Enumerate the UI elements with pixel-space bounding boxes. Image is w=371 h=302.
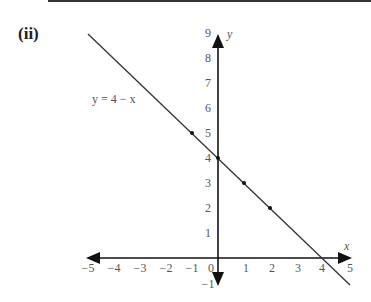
svg-text:6: 6 [205,101,211,115]
svg-text:5: 5 [205,126,211,140]
svg-text:5: 5 [347,261,353,275]
svg-text:3: 3 [295,261,301,275]
svg-text:4: 4 [205,151,211,165]
svg-text:2: 2 [205,201,211,215]
svg-text:−3: −3 [134,261,147,275]
x-axis [86,252,352,264]
svg-text:7: 7 [205,76,211,90]
svg-text:1: 1 [243,261,249,275]
svg-text:4: 4 [319,261,325,275]
svg-text:−2: −2 [160,261,173,275]
y-axis-up-arrow-icon [212,34,224,48]
svg-text:3: 3 [205,176,211,190]
svg-text:8: 8 [205,51,211,65]
svg-text:−4: −4 [108,261,121,275]
point-2-2 [268,206,272,210]
svg-text:2: 2 [269,261,275,275]
svg-text:−1: −1 [202,277,215,291]
svg-text:−5: −5 [82,261,95,275]
point-1-3 [242,181,246,185]
equation-label: y = 4 − x [92,92,136,106]
svg-text:−1: −1 [186,261,199,275]
svg-text:1: 1 [205,226,211,240]
x-axis-label: x [343,239,350,253]
graph: −5 −4 −3 −2 −1 0 1 2 3 4 5 −1 1 2 3 4 5 … [0,0,371,302]
svg-text:9: 9 [205,26,211,40]
y-axis-label: y [226,27,233,41]
point-neg1-5 [190,131,194,135]
point-0-4 [216,156,220,160]
svg-text:0: 0 [208,261,214,275]
y-tick-labels: −1 1 2 3 4 5 6 7 8 9 [202,26,215,291]
